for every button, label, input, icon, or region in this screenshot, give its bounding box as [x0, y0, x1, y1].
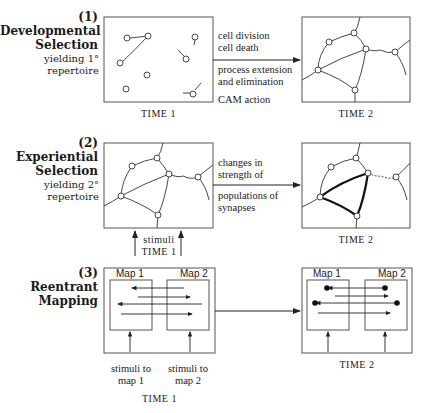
row1-time1-box [104, 17, 213, 102]
row3-time1-map2-label: Map 2 [180, 268, 208, 279]
row3-title: Reentrant Mapping [0, 280, 98, 308]
row3-stimuli-map1: stimuli to map 1 [106, 363, 156, 387]
row2-subtitle: yielding 2° repertoire [0, 179, 99, 203]
row2-subtitle-line2: repertoire [0, 191, 99, 203]
row1-title-line2: Selection [0, 38, 98, 52]
stimuli-map1-line1: stimuli to [106, 363, 156, 375]
row3-time1-map1-label: Map 1 [116, 268, 144, 279]
row2-processes-top: changes in strength of [218, 157, 263, 181]
row1-processes-bottom: process extension and elimination [218, 64, 292, 88]
process-synapses: synapses [218, 202, 278, 214]
row3-time1-box [104, 268, 215, 353]
row3-title-line2: Mapping [0, 294, 98, 308]
row2-title: Experiential Selection [0, 150, 98, 178]
row1-number: (1) [30, 10, 98, 24]
row3-stimuli-map2: stimuli to map 2 [163, 363, 213, 387]
row2-time2-box [302, 143, 410, 228]
row2-number: (2) [30, 136, 98, 150]
row1-subtitle: yielding 1° repertoire [0, 53, 99, 77]
row1-processes-top: cell division cell death [218, 30, 270, 54]
row2-stimuli-label: stimuli [136, 234, 182, 245]
row1-title: Developmental Selection [0, 24, 98, 52]
row3-time2-map1-label: Map 1 [313, 268, 341, 279]
stimuli-map1-line2: map 1 [106, 375, 156, 387]
process-cell-division: cell division [218, 30, 270, 42]
row1-subtitle-line1: yielding 1° [0, 53, 99, 65]
row2-time2-label: TIME 2 [302, 234, 410, 245]
row2-title-line1: Experiential [0, 150, 98, 164]
row2-subtitle-line1: yielding 2° [0, 179, 99, 191]
row1-subtitle-line2: repertoire [0, 65, 99, 77]
process-strength-of: strength of [218, 169, 263, 181]
row1-time1-label: TIME 1 [104, 108, 213, 119]
process-changes-in: changes in [218, 157, 263, 169]
row3-time2-label: TIME 2 [302, 359, 412, 370]
row3-time2-map2-label: Map 2 [378, 268, 406, 279]
process-cell-death: cell death [218, 42, 270, 54]
row1-time2-box [302, 17, 410, 102]
row3-time2-box [302, 268, 412, 353]
row3-time1-label: TIME 1 [104, 393, 215, 404]
row1-time2-label: TIME 2 [302, 108, 410, 119]
row2-processes-bottom: populations of synapses [218, 190, 278, 214]
row2-title-line2: Selection [0, 164, 98, 178]
row1-title-line1: Developmental [0, 24, 98, 38]
stimuli-map2-line2: map 2 [163, 375, 213, 387]
process-extension: process extension [218, 64, 292, 76]
row2-time1-box [104, 143, 213, 228]
process-cam-action: CAM action [218, 94, 270, 106]
process-populations-of: populations of [218, 190, 278, 202]
row2-time1-label: TIME 1 [136, 246, 182, 257]
stimuli-map2-line1: stimuli to [163, 363, 213, 375]
row3-number: (3) [30, 266, 98, 280]
row3-title-line1: Reentrant [0, 280, 98, 294]
process-elimination: and elimination [218, 76, 292, 88]
